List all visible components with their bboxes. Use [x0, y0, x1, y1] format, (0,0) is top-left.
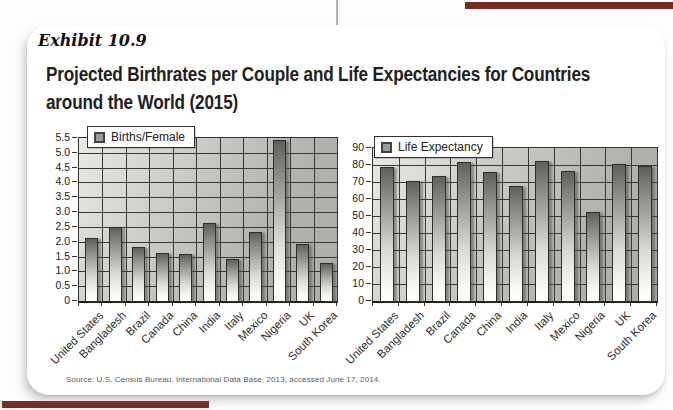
vertical-gridline [267, 138, 268, 301]
vertical-gridline [605, 148, 606, 301]
vertical-gridline [290, 138, 291, 301]
y-axis-tick-label: 60 [326, 192, 364, 204]
vertical-gridline [580, 148, 581, 301]
y-axis-tick-label: 5.0 [32, 146, 70, 158]
y-axis-tick-label: 2.0 [32, 235, 70, 247]
bar-nigeria [586, 212, 600, 301]
horizontal-gridline [79, 182, 337, 183]
bar-bangladesh [109, 227, 122, 301]
x-axis-tick-mark [424, 302, 425, 306]
y-axis-tick-label: 3.5 [32, 190, 70, 202]
bar-mexico [249, 232, 262, 301]
y-axis-tick-label: 70 [326, 175, 364, 187]
y-axis-tick-label: 4.5 [32, 161, 70, 173]
y-axis-tick-label: 3.0 [32, 205, 70, 217]
y-axis-tick-mark [72, 137, 77, 138]
x-axis-tick-mark [630, 302, 631, 306]
x-axis-tick-mark [313, 302, 314, 306]
bar-nigeria [273, 140, 286, 301]
y-axis-tick-mark [366, 198, 371, 199]
x-axis-tick-mark [242, 302, 243, 306]
exhibit-title-line2: around the World (2015) [46, 88, 627, 116]
bar-canada [457, 162, 471, 301]
horizontal-gridline [79, 197, 337, 198]
y-axis-tick-mark [72, 167, 77, 168]
x-axis-tick-mark [398, 302, 399, 306]
bar-italy [226, 259, 239, 301]
vertical-gridline [554, 148, 555, 301]
y-axis-tick-label: 50 [326, 209, 364, 221]
births-per-female-chart: 5.55.04.54.03.53.02.52.01.51.00.50United… [78, 137, 336, 300]
bar-china [179, 254, 192, 301]
x-axis-tick-mark [579, 302, 580, 306]
vertical-gridline [528, 148, 529, 301]
bar-india [203, 223, 216, 301]
y-axis-tick-mark [366, 147, 371, 148]
source-note: Source: U.S. Census Bureau, Internationa… [66, 375, 381, 384]
vertical-gridline [314, 138, 315, 301]
x-axis-tick-mark [172, 302, 173, 306]
bar-italy [535, 161, 549, 301]
x-axis-tick-mark [148, 302, 149, 306]
y-axis-tick-mark [72, 285, 77, 286]
y-axis-tick-mark [72, 211, 77, 212]
bar-mexico [561, 171, 575, 301]
x-axis-tick-mark [475, 302, 476, 306]
exhibit-label: Exhibit 10.9 [38, 31, 147, 50]
y-axis-tick-mark [72, 152, 77, 153]
y-axis-tick-label: 2.5 [32, 220, 70, 232]
y-axis-tick-label: 0.5 [32, 279, 70, 291]
vertical-gridline [450, 148, 451, 301]
y-axis-tick-mark [72, 181, 77, 182]
life-expectancy-chart: 9080706050403020100United StatesBanglade… [372, 147, 656, 300]
exhibit-title: Projected Birthrates per Couple and Life… [46, 60, 627, 116]
y-axis-tick-mark [366, 164, 371, 165]
vertical-gridline [220, 138, 221, 301]
legend-label: Life Expectancy [398, 140, 483, 154]
x-axis-tick-mark [125, 302, 126, 306]
vertical-gridline [502, 148, 503, 301]
bar-uk [296, 244, 309, 301]
y-axis-tick-mark [366, 249, 371, 250]
vertical-gridline [173, 138, 174, 301]
legend-swatch-icon [381, 142, 392, 153]
column-divider-line [336, 0, 338, 27]
y-axis-tick-mark [366, 181, 371, 182]
bar-united-states [85, 238, 98, 301]
plot-area [78, 137, 338, 303]
horizontal-gridline [79, 153, 337, 154]
vertical-gridline [149, 138, 150, 301]
y-axis-tick-label: 5.5 [32, 131, 70, 143]
bar-canada [156, 253, 169, 301]
x-axis-tick-mark [372, 302, 373, 306]
x-axis-tick-mark [266, 302, 267, 306]
y-axis-tick-label: 4.0 [32, 175, 70, 187]
x-axis-tick-mark [527, 302, 528, 306]
bar-united-states [380, 167, 394, 301]
chart-legend: Births/Female [87, 126, 195, 148]
page-accent-bar-bottom [2, 401, 209, 408]
vertical-gridline [102, 138, 103, 301]
page-canvas: Exhibit 10.9 Projected Birthrates per Co… [0, 0, 673, 410]
y-axis-tick-label: 1.5 [32, 250, 70, 262]
vertical-gridline [425, 148, 426, 301]
bar-south-korea [320, 263, 333, 301]
y-axis-tick-mark [72, 256, 77, 257]
x-axis-tick-mark [656, 302, 657, 306]
bar-south-korea [638, 166, 652, 301]
y-axis-tick-label: 30 [326, 243, 364, 255]
vertical-gridline [126, 138, 127, 301]
bar-brazil [432, 176, 446, 301]
y-axis-tick-mark [72, 241, 77, 242]
y-axis-tick-mark [366, 215, 371, 216]
y-axis-tick-label: 1.0 [32, 264, 70, 276]
legend-swatch-icon [94, 132, 105, 143]
horizontal-gridline [79, 168, 337, 169]
x-axis-tick-mark [101, 302, 102, 306]
vertical-gridline [476, 148, 477, 301]
y-axis-tick-mark [366, 232, 371, 233]
x-axis-tick-mark [553, 302, 554, 306]
exhibit-title-line1: Projected Birthrates per Couple and Life… [46, 60, 627, 88]
vertical-gridline [399, 148, 400, 301]
bar-china [483, 172, 497, 301]
